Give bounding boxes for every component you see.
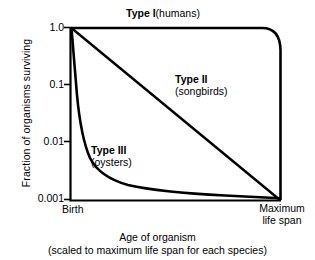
annotation-type-ii: Type II (songbirds): [175, 74, 228, 97]
y-tick-label-1: 1.0: [49, 21, 64, 33]
x-tick-label-life-span: life span: [252, 215, 312, 227]
annotation-type-iii: Type III (oysters): [91, 145, 132, 168]
y-tick-label-0.001: 0.001: [38, 192, 64, 204]
annotation-type-iii-bold: Type III: [91, 144, 126, 156]
y-tick-label-0.1: 0.1: [49, 78, 64, 90]
annotation-type-ii-bold: Type II: [175, 73, 207, 85]
x-axis-label-sub: (scaled to maximum life span for each sp…: [0, 244, 315, 257]
y-axis-tick-labels: 1.0 0.1 0.01 0.001: [18, 0, 64, 260]
x-axis-label: Age of organism (scaled to maximum life …: [0, 231, 315, 256]
annotation-type-iii-sub: (oysters): [91, 157, 132, 169]
survivorship-curve-figure: Fraction of organisms surviving 1.0 0.1 …: [0, 0, 315, 260]
annotation-type-ii-sub: (songbirds): [175, 86, 228, 98]
x-tick-label-maximum-life-span: Maximum life span: [252, 203, 312, 226]
y-tick-label-0.01: 0.01: [44, 135, 64, 147]
x-axis-label-main: Age of organism: [0, 231, 315, 244]
annotation-type-i: Type I(humans): [126, 8, 200, 20]
annotation-type-i-bold: Type I: [126, 7, 156, 19]
x-tick-label-maximum: Maximum: [252, 203, 312, 215]
annotation-type-i-sub: (humans): [156, 7, 200, 19]
x-tick-label-birth: Birth: [62, 203, 84, 215]
